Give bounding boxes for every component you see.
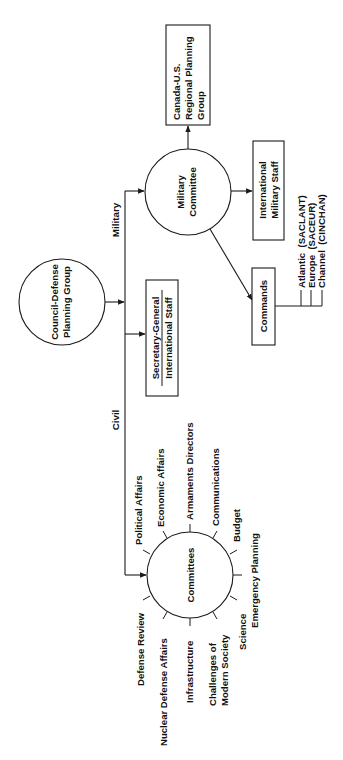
committee-challenges-line1: Challenges of <box>207 642 218 706</box>
committee-economic-affairs: Economic Affairs <box>155 448 166 527</box>
military-committee-node: Military Committee <box>145 149 231 235</box>
committee-emergency-planning: Emergency Planning <box>249 533 260 628</box>
canada-line1: Canada-U.S. <box>171 63 182 120</box>
council-line1: Council-Defense <box>49 264 60 340</box>
committee-defense-review: Defense Review <box>135 612 146 686</box>
commands-node: Commands <box>252 268 275 345</box>
committee-communications: Communications <box>210 448 221 526</box>
committees-node: Committees <box>147 532 233 618</box>
committee-challenges-line2: Modern Society <box>219 634 230 706</box>
committee-armaments-directors: Armaments Directors <box>184 422 195 520</box>
canada-line3: Group <box>195 91 206 120</box>
commands-list: Atlantic (SACLANT) Europe (SACEUR) Chann… <box>296 194 327 288</box>
committee-infrastructure: Infrastructure <box>184 641 195 703</box>
command-channel: Channel (CINCHAN) <box>316 194 327 288</box>
committee-nuclear-defense-affairs: Nuclear Defense Affairs <box>158 638 169 746</box>
secretary-line2: International Staff <box>163 296 174 378</box>
mc-line1: Military <box>175 175 186 209</box>
nato-org-diagram: Military Civil Council-Defense Planning … <box>0 0 343 760</box>
commands-label: Commands <box>258 280 269 332</box>
committees-label: Committees <box>185 548 196 603</box>
canada-us-node: Canada-U.S. Regional Planning Group <box>166 25 210 125</box>
ims-line2: Military Staff <box>269 160 280 218</box>
committee-science: Science <box>237 614 248 650</box>
ims-line1: International <box>257 161 268 219</box>
canada-line2: Regional Planning <box>183 36 194 120</box>
council-defense-node: Council-Defense Planning Group <box>19 259 105 345</box>
secretary-line1: Secretary-General <box>150 297 161 380</box>
council-line2: Planning Group <box>61 266 72 338</box>
branch-civil-label: Civil <box>110 409 121 430</box>
intl-military-staff-node: International Military Staff <box>253 141 284 240</box>
mc-to-commands-arrow <box>210 229 252 300</box>
committee-political-affairs: Political Affairs <box>133 476 144 545</box>
committee-budget: Budget <box>231 508 242 542</box>
mc-line2: Committee <box>187 167 198 217</box>
secretary-general-node: Secretary-General International Staff <box>146 280 178 396</box>
branch-military-label: Military <box>110 202 121 237</box>
